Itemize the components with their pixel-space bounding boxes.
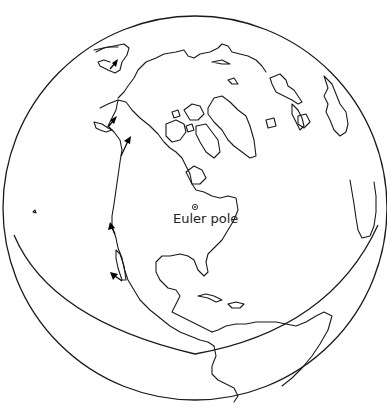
coast-baffin bbox=[196, 124, 220, 158]
globe-figure: Euler pole bbox=[0, 0, 387, 411]
coast-small-island bbox=[33, 210, 36, 213]
coast-greenland bbox=[208, 96, 256, 158]
euler-pole-label: Euler pole bbox=[173, 211, 238, 226]
coast-hudson-bay bbox=[186, 166, 206, 184]
arrow-head-icon bbox=[110, 272, 118, 280]
coast-bering-line bbox=[94, 47, 118, 50]
coast-iceland bbox=[266, 118, 276, 128]
coast-svalbard bbox=[228, 78, 238, 84]
coast-hispaniola bbox=[228, 302, 244, 308]
pole-dot-icon bbox=[194, 206, 196, 208]
coast-south-america-west bbox=[212, 346, 238, 402]
coast-ellesmere bbox=[184, 104, 204, 120]
coast-scandinavia bbox=[270, 74, 302, 104]
coast-novaya-zemlya bbox=[212, 60, 230, 64]
coast-africa bbox=[350, 180, 376, 238]
coast-siberia bbox=[118, 44, 266, 98]
coast-europe bbox=[324, 76, 348, 136]
motion-arrows bbox=[108, 59, 131, 281]
coast-victoria-island bbox=[166, 120, 186, 142]
globe-map bbox=[0, 0, 387, 411]
euler-pole-marker bbox=[192, 204, 197, 209]
coast-south-america bbox=[212, 312, 332, 386]
coast-small-islands bbox=[172, 110, 194, 132]
coast-cuba bbox=[198, 294, 222, 302]
globe-cut-arc bbox=[14, 225, 378, 354]
